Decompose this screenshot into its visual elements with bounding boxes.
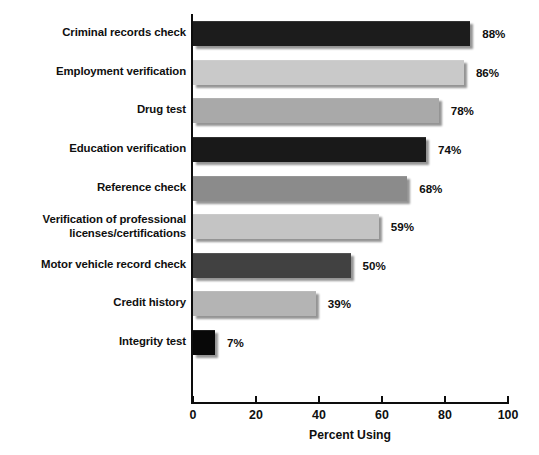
x-axis-tick [192, 396, 194, 403]
x-axis-tick [318, 396, 320, 403]
x-axis-tick [381, 396, 383, 403]
x-axis-tick-label: 100 [498, 408, 519, 422]
x-axis-tick [255, 396, 257, 403]
x-axis-tick-label: 80 [438, 408, 452, 422]
x-axis-tick [507, 396, 509, 403]
x-axis-tick-label: 60 [375, 408, 389, 422]
x-axis-title: Percent Using [191, 428, 509, 442]
bar-chart: Criminal records check88%Employment veri… [0, 0, 539, 455]
x-axis-tick-label: 20 [249, 408, 263, 422]
plot-area: Criminal records check88%Employment veri… [0, 0, 539, 455]
x-axis-ticks: 020406080100 [0, 0, 539, 455]
x-axis-tick-label: 40 [312, 408, 326, 422]
x-axis-tick [444, 396, 446, 403]
x-axis-tick-label: 0 [190, 408, 197, 422]
